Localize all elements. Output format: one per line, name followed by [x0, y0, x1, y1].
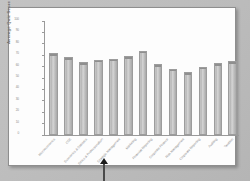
- bar-top-cap: [50, 54, 57, 56]
- bar[interactable]: [139, 51, 148, 135]
- bar-top-cap: [140, 52, 147, 54]
- bar-slot: [214, 21, 223, 135]
- bar-slot: [64, 21, 73, 135]
- bar-top-cap: [170, 70, 177, 72]
- y-tick-label: 100: [14, 18, 19, 21]
- bar-slot: [139, 21, 148, 135]
- bar-slot: [199, 21, 208, 135]
- y-tick-label: 20: [16, 109, 19, 112]
- bar-top-cap: [80, 63, 87, 65]
- y-tick-label: 50: [16, 75, 19, 78]
- bar-slot: [169, 21, 178, 135]
- bar-top-cap: [65, 58, 72, 60]
- y-tick-label: 0: [17, 132, 19, 135]
- bar[interactable]: [228, 61, 237, 135]
- screenshot-root: Average Quiz Score 010203040506070809010…: [0, 0, 250, 181]
- y-tick-label: 10: [16, 121, 19, 124]
- bar[interactable]: [124, 56, 133, 135]
- y-tick-label: 90: [16, 29, 19, 32]
- bar-slot: [228, 21, 237, 135]
- bar-slot: [124, 21, 133, 135]
- bar[interactable]: [214, 63, 223, 135]
- up-arrow-pointer-annotation: [98, 158, 110, 181]
- y-tick-label: 60: [16, 64, 19, 67]
- bar-slot: [49, 21, 58, 135]
- bar[interactable]: [199, 67, 208, 135]
- bar-top-cap: [155, 65, 162, 67]
- bar-slot: [154, 21, 163, 135]
- bar[interactable]: [79, 62, 88, 135]
- bar-top-cap: [110, 60, 117, 62]
- arrow-shaft: [103, 164, 104, 181]
- y-tick-label: 70: [16, 52, 19, 55]
- chart-figure-panel: Average Quiz Score 010203040506070809010…: [8, 7, 236, 166]
- y-tick-label: 80: [16, 41, 19, 44]
- bar[interactable]: [109, 59, 118, 135]
- y-tick-label: 40: [16, 86, 19, 89]
- x-axis-line: [44, 135, 239, 136]
- y-tick-label: 30: [16, 98, 19, 101]
- bar[interactable]: [184, 72, 193, 135]
- bar-top-cap: [215, 64, 222, 66]
- bar[interactable]: [154, 64, 163, 135]
- bar[interactable]: [49, 53, 58, 135]
- bar-top-cap: [125, 57, 132, 59]
- bar-slot: [184, 21, 193, 135]
- bar[interactable]: [94, 60, 103, 135]
- bar-top-cap: [95, 61, 102, 63]
- y-axis-title: Average Quiz Score: [7, 0, 12, 44]
- plot-area: [45, 21, 239, 135]
- bar-top-cap: [229, 62, 236, 64]
- bar-slot: [94, 21, 103, 135]
- bar[interactable]: [64, 57, 73, 135]
- bar[interactable]: [169, 69, 178, 135]
- bar-slot: [79, 21, 88, 135]
- bar-top-cap: [200, 68, 207, 70]
- bar-slot: [109, 21, 118, 135]
- bar-top-cap: [185, 73, 192, 75]
